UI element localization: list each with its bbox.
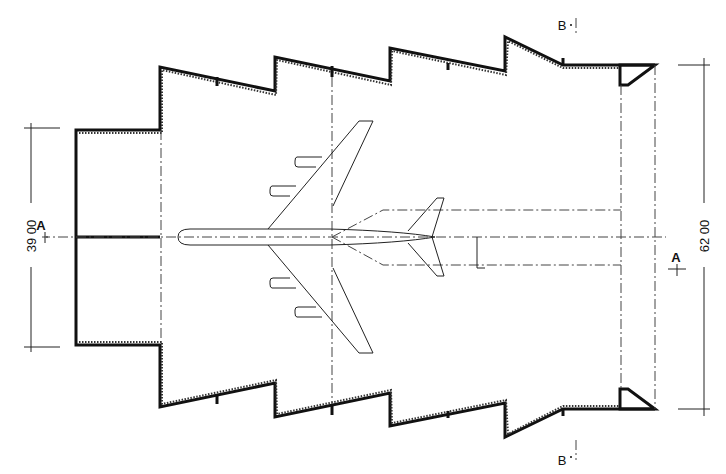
section-b-bottom-label: B bbox=[558, 453, 567, 468]
engine-3 bbox=[270, 278, 296, 288]
engine-4 bbox=[295, 307, 322, 317]
dimension-right: 62 00 bbox=[678, 58, 715, 416]
door-pocket-bottom bbox=[620, 389, 655, 409]
tail-dock-marker bbox=[477, 237, 485, 268]
hangar-plan-drawing: 39 00 62 00 A A B B bbox=[0, 0, 726, 474]
section-marker-b-bottom: B bbox=[558, 453, 572, 468]
wing-upper bbox=[268, 121, 373, 229]
section-marker-a-right: A bbox=[668, 250, 686, 276]
tailplane-lower bbox=[408, 237, 444, 276]
section-arrow-icon bbox=[570, 456, 572, 458]
engine-1 bbox=[295, 157, 322, 167]
wing-lower bbox=[268, 245, 373, 353]
engine-2 bbox=[270, 186, 296, 196]
section-b-top-label: B bbox=[558, 18, 567, 33]
tailplane-upper bbox=[408, 198, 444, 237]
plan-svg: 39 00 62 00 A A B B bbox=[0, 0, 726, 474]
dimension-label-62: 62 00 bbox=[697, 220, 712, 253]
section-a-left-label: A bbox=[36, 218, 46, 233]
axis-lines bbox=[40, 18, 666, 460]
door-pocket-top bbox=[620, 65, 655, 85]
section-a-right-label: A bbox=[671, 250, 681, 265]
tail-zone-upper bbox=[332, 210, 621, 237]
section-marker-b-top: B bbox=[558, 18, 572, 33]
section-arrow-icon bbox=[570, 24, 572, 26]
